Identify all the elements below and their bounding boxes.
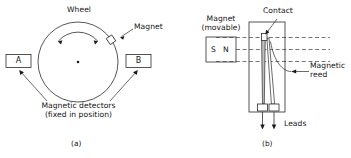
wheel-magnet-block (106, 35, 115, 45)
contact-label: Contact (263, 7, 293, 16)
figure-canvas (0, 0, 351, 158)
lead-arrowhead-right (272, 124, 276, 129)
magnet-pole-south-label: S (211, 45, 216, 54)
detector-a-leader-line (21, 72, 48, 102)
movable-magnet-label-line2: (movable) (196, 24, 246, 33)
rotation-arc (58, 32, 98, 41)
terminal-pad-right (269, 104, 279, 111)
reed-blade-left (262, 40, 266, 105)
detector-b-leader-line (110, 72, 137, 102)
panel-b-caption: (b) (262, 139, 272, 148)
reed-leader-arrowhead (291, 69, 296, 73)
detectors-caption-line2: (fixed in position) (22, 111, 135, 120)
wheel-label: Wheel (57, 6, 101, 15)
reed-blade-right (267, 38, 275, 104)
magnet-pole-north-label: N (223, 45, 229, 54)
panel-a-caption: (a) (71, 139, 81, 148)
detector-b-label: B (126, 57, 151, 65)
contact-leader-line (267, 19, 278, 33)
detector-a-label: A (6, 57, 31, 65)
lead-arrowhead-left (260, 124, 264, 129)
leads-label: Leads (284, 120, 306, 129)
reed-contact-pad (261, 34, 267, 41)
magnet-leader-arrowhead (120, 36, 124, 40)
magnet-leader-line (122, 29, 134, 37)
reed-pointer-curve (271, 42, 292, 72)
magnet-label: Magnet (134, 23, 163, 32)
wheel-axle-dot (77, 61, 80, 64)
magnetic-reed-label-line2: reed (310, 71, 327, 80)
terminal-pad-left (258, 104, 268, 111)
